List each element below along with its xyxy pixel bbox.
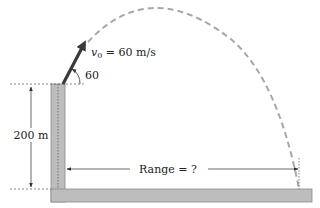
projectile-diagram: 200 m 60 v0 = 60 m/s Range = ? — [0, 0, 320, 208]
height-label: 200 m — [14, 129, 49, 142]
velocity-arrow — [63, 44, 84, 84]
range-label: Range = ? — [139, 163, 197, 176]
ground — [51, 189, 312, 202]
trajectory-path — [88, 8, 299, 189]
angle-arc — [72, 69, 80, 84]
angle-label: 60 — [85, 69, 99, 82]
velocity-label: v0 = 60 m/s — [91, 46, 156, 60]
